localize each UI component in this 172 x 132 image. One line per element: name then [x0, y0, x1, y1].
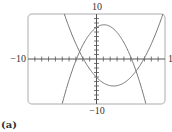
downward-parabola-curve [62, 25, 146, 104]
x-min-label: −10 [10, 53, 26, 64]
graph-figure: 10 −10 −10 1 (a) [0, 0, 172, 132]
x-max-label: 1 [168, 53, 172, 64]
y-max-label: 10 [92, 1, 102, 12]
upward-parabola-curve [64, 14, 163, 86]
y-min-label: −10 [89, 105, 105, 116]
figure-caption: (a) [1, 119, 17, 130]
